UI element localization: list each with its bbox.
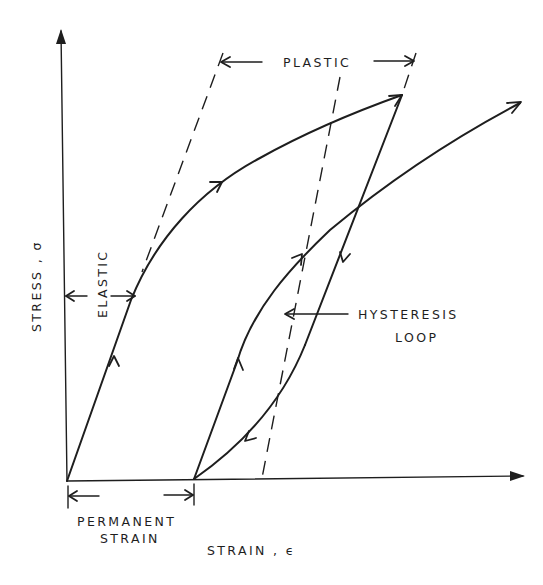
stress-strain-diagram: PLASTIC ELASTIC HYSTERESIS LOOP PERMANEN… (0, 0, 543, 585)
hysteresis-loop-annotation: HYSTERESIS LOOP (285, 307, 459, 345)
x-axis (67, 471, 525, 481)
x-axis-label: STRAIN , ϵ (207, 543, 296, 558)
y-axis-arrowhead-icon (56, 29, 66, 44)
permanent-strain-dimension: PERMANENT STRAIN (68, 484, 194, 546)
permanent-strain-label-line1: PERMANENT (77, 514, 176, 529)
elastic-slope-dashed-line-3 (402, 53, 416, 95)
elastic-dimension: ELASTIC (66, 250, 135, 319)
hysteresis-lower-branch (194, 345, 305, 479)
elastic-label: ELASTIC (95, 250, 110, 319)
elastic-slope-dashed-line-1 (142, 53, 223, 272)
reloading-curve (194, 103, 520, 479)
reloading-end-arrowhead-icon (507, 102, 521, 113)
permanent-strain-label-line2: STRAIN (100, 531, 160, 546)
x-axis-arrowhead-icon (510, 471, 525, 481)
y-axis (56, 29, 67, 481)
hysteresis-lower-arrowhead-icon (245, 431, 256, 441)
loading-curve (67, 95, 402, 481)
hysteresis-label-line1: HYSTERESIS (358, 307, 459, 322)
hysteresis-label-line2: LOOP (395, 330, 438, 345)
y-axis-label: STRESS , σ (29, 240, 44, 332)
plastic-label: PLASTIC (283, 55, 351, 70)
plastic-dimension: PLASTIC (221, 55, 414, 70)
